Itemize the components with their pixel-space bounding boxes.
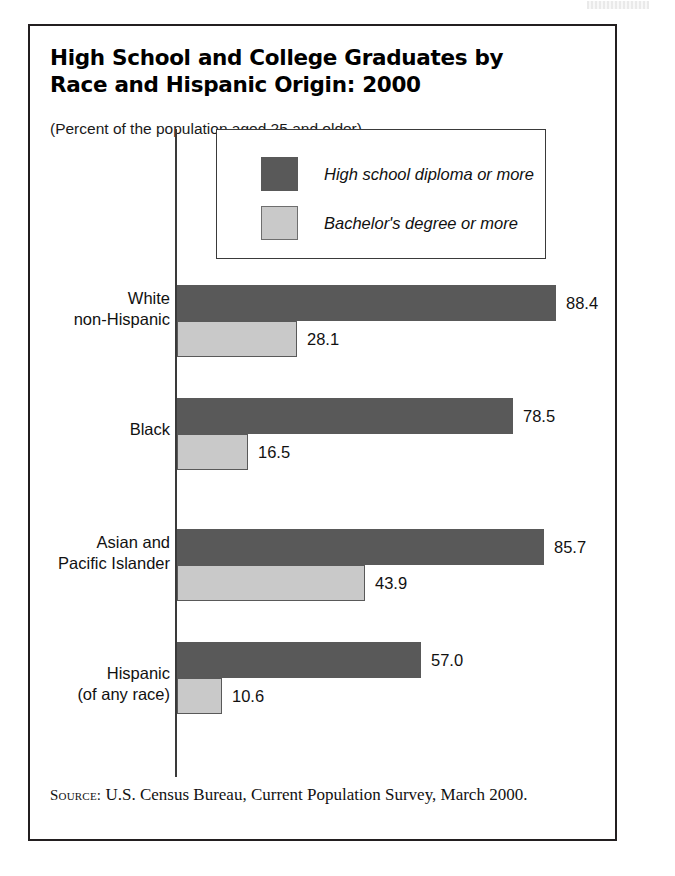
category-line-2: (of any race) bbox=[77, 685, 170, 703]
category-line-1: White bbox=[128, 289, 170, 307]
bar-value-black-highschool: 78.5 bbox=[523, 407, 555, 426]
bar-asian-pacific-islander-bachelors bbox=[177, 565, 365, 601]
bar-hispanic-bachelors bbox=[177, 678, 222, 714]
bar-value-hispanic-bachelors: 10.6 bbox=[232, 687, 264, 706]
bar-value-black-bachelors: 16.5 bbox=[258, 443, 290, 462]
category-label-hispanic: Hispanic (of any race) bbox=[30, 663, 169, 705]
bar-value-asian-pacific-islander-bachelors: 43.9 bbox=[375, 574, 407, 593]
bar-value-white-non-hispanic-bachelors: 28.1 bbox=[307, 330, 339, 349]
category-line-2: non-Hispanic bbox=[74, 310, 170, 328]
bar-value-white-non-hispanic-highschool: 88.4 bbox=[566, 294, 598, 313]
source-kicker: Source: bbox=[50, 787, 101, 803]
scan-edge-artifact bbox=[587, 1, 649, 9]
bar-value-hispanic-highschool: 57.0 bbox=[431, 651, 463, 670]
bar-white-non-hispanic-highschool bbox=[177, 285, 556, 321]
category-line-1: Hispanic bbox=[107, 664, 170, 682]
category-label-white-non-hispanic: White non-Hispanic bbox=[30, 288, 169, 330]
bar-asian-pacific-islander-highschool bbox=[177, 529, 544, 565]
bar-hispanic-highschool bbox=[177, 642, 421, 678]
figure-frame: High School and College Graduates by Rac… bbox=[28, 24, 617, 841]
figure-inner: High School and College Graduates by Rac… bbox=[30, 26, 615, 839]
category-line-1: Black bbox=[130, 420, 170, 438]
category-label-asian-pacific-islander: Asian and Pacific Islander bbox=[30, 532, 169, 574]
category-line-1: Asian and bbox=[97, 533, 170, 551]
bar-value-asian-pacific-islander-highschool: 85.7 bbox=[554, 538, 586, 557]
bar-black-bachelors bbox=[177, 434, 248, 470]
bar-white-non-hispanic-bachelors bbox=[177, 321, 297, 357]
source-note: Source: U.S. Census Bureau, Current Popu… bbox=[50, 783, 595, 807]
source-text: U.S. Census Bureau, Current Population S… bbox=[101, 785, 527, 804]
bar-black-highschool bbox=[177, 398, 513, 434]
category-label-black: Black bbox=[30, 419, 169, 440]
category-line-2: Pacific Islander bbox=[58, 554, 170, 572]
chart-plot-area: White non-Hispanic 88.4 28.1 Black 78.5 … bbox=[30, 26, 615, 839]
